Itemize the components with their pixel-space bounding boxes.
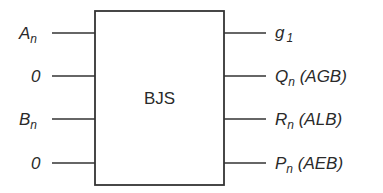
input-label-an: An xyxy=(18,24,37,46)
output-label-g1: g1 xyxy=(275,23,293,45)
input-label-0-b: 0 xyxy=(31,154,41,173)
input-label-bn: Bn xyxy=(19,110,37,132)
output-label-qn: Qn (AGB) xyxy=(275,67,347,89)
input-label-0-a: 0 xyxy=(31,67,41,86)
output-label-rn: Rn (ALB) xyxy=(275,110,342,132)
output-label-pn: Pn (AEB) xyxy=(275,154,343,176)
block-diagram: BJS An 0 Bn 0 g1 Qn (AGB) Rn (ALB) Pn (A… xyxy=(0,0,383,193)
block-label: BJS xyxy=(144,89,175,108)
